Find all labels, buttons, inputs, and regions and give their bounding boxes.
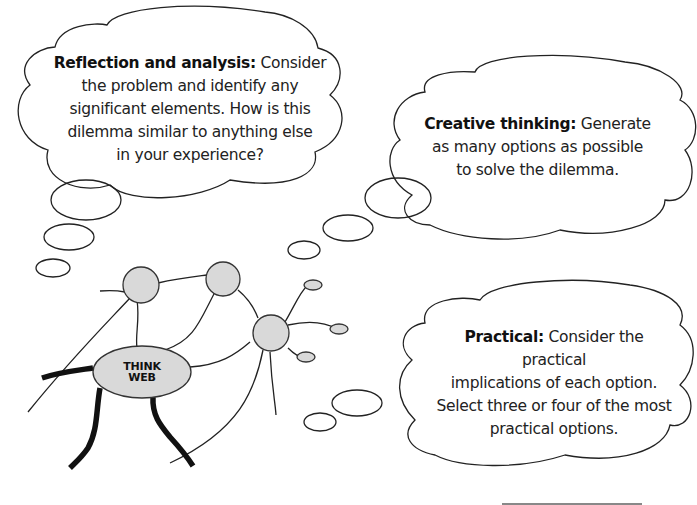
reflection-text: Reflection and analysis: Consider the pr… [40,52,340,167]
text-line: Consider [260,54,326,72]
web-node [253,315,289,351]
thought-bubble [288,241,320,259]
web-node [206,262,240,296]
text-line: implications of each option. [430,372,678,395]
reflection-heading: Reflection and analysis: [54,54,256,72]
creative-heading: Creative thinking: [424,115,576,133]
text-line: Generate [581,115,651,133]
think-web-label: THINK WEB [112,361,172,383]
web-node-small [297,352,315,362]
text-line: practical options. [430,418,678,441]
thought-bubble [304,413,336,431]
text-line: dilemma similar to anything else [40,121,340,144]
thought-bubble [323,215,373,241]
text-line: Select three or four of the most [430,395,678,418]
leg-stroke [70,388,100,468]
text-line: the problem and identify any [40,75,340,98]
practical-text: Practical: Consider the practical implic… [430,326,678,441]
web-node [123,267,159,303]
thought-bubble [51,180,121,220]
creative-text: Creative thinking: Generate as many opti… [415,113,660,182]
text-line: to solve the dilemma. [415,159,660,182]
think-web-line: WEB [112,372,172,383]
thought-bubble [36,259,70,277]
leg-stroke [153,397,193,466]
thought-bubble [44,224,94,250]
thought-bubble [332,390,382,416]
web-node-small [330,324,348,334]
text-line: significant elements. How is this [40,98,340,121]
web-node-small [304,280,322,290]
practical-heading: Practical: [464,328,544,346]
text-line: as many options as possible [415,136,660,159]
text-line: in your experience? [40,144,340,167]
arm-stroke [42,368,93,378]
